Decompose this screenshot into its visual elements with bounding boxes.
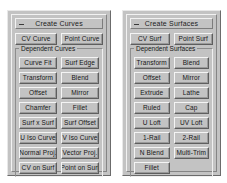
button-ruled[interactable]: Ruled (134, 102, 170, 114)
button-cap[interactable]: Cap (174, 102, 210, 114)
button-transform[interactable]: Transform (19, 72, 57, 84)
button-row: N Blend Multi-Trim (134, 147, 209, 159)
button-blend[interactable]: Blend (174, 57, 210, 69)
button-row: Transform Blend (134, 57, 209, 69)
screen: Create Curves CV Curve Point Curve Depen… (0, 0, 227, 183)
button-row: Surf x Surf Surf Offset (19, 117, 99, 129)
button-n-blend[interactable]: N Blend (134, 147, 170, 159)
button-row: Fillet (134, 162, 209, 174)
button-u-iso-curve[interactable]: U Iso Curve (19, 132, 57, 144)
button-row: U Iso Curve V Iso Curve (19, 132, 99, 144)
button-surf-edge[interactable]: Surf Edge (61, 57, 99, 69)
button-row: Offset Mirror (19, 87, 99, 99)
button-row: 1-Rail 2-Rail (134, 132, 209, 144)
button-cv-surf[interactable]: CV Surf (130, 33, 170, 45)
button-uv-loft[interactable]: UV Loft (174, 117, 210, 129)
button-row: CV on Surf Point on Surf (19, 162, 99, 174)
titlebar-create-curves[interactable]: Create Curves (15, 18, 103, 29)
button-point-curve[interactable]: Point Curve (61, 33, 103, 45)
button-offset[interactable]: Offset (134, 72, 170, 84)
button-2-rail[interactable]: 2-Rail (174, 132, 210, 144)
titlebar-create-surfaces[interactable]: Create Surfaces (130, 18, 213, 29)
button-vector-proj[interactable]: Vector Proj. (61, 147, 99, 159)
button-cv-on-surf[interactable]: CV on Surf (19, 162, 57, 174)
groupbox-legend: Dependent Surfaces (134, 45, 197, 53)
palette-create-curves: Create Curves CV Curve Point Curve Depen… (7, 10, 111, 176)
groupbox-legend: Dependent Curves (19, 45, 77, 53)
button-multi-trim[interactable]: Multi-Trim (174, 147, 210, 159)
button-v-iso-curve[interactable]: V Iso Curve (61, 132, 99, 144)
palette-create-surfaces: Create Surfaces CV Surf Point Surf Depen… (122, 10, 221, 176)
button-u-loft[interactable]: U Loft (134, 117, 170, 129)
button-extrude[interactable]: Extrude (134, 87, 170, 99)
button-lathe[interactable]: Lathe (174, 87, 210, 99)
groupbox-dependent-curves: Dependent Curves Curve Fit Surf Edge Tra… (15, 48, 103, 177)
button-row: Transform Blend (19, 72, 99, 84)
button-mirror[interactable]: Mirror (61, 87, 99, 99)
button-fillet[interactable]: Fillet (134, 162, 170, 174)
button-row: Normal Proj. Vector Proj. (19, 147, 99, 159)
button-mirror[interactable]: Mirror (174, 72, 210, 84)
button-row: CV Surf Point Surf (130, 33, 213, 45)
button-row: Offset Mirror (134, 72, 209, 84)
button-transform[interactable]: Transform (134, 57, 170, 69)
button-blend[interactable]: Blend (61, 72, 99, 84)
button-row: CV Curve Point Curve (15, 33, 103, 45)
palette-inner: Create Surfaces CV Surf Point Surf Depen… (126, 14, 217, 172)
button-1-rail[interactable]: 1-Rail (134, 132, 170, 144)
groupbox-dependent-surfaces: Dependent Surfaces Transform Blend Offse… (130, 48, 213, 177)
button-row: Extrude Lathe (134, 87, 209, 99)
button-cv-curve[interactable]: CV Curve (15, 33, 57, 45)
minimize-icon[interactable] (134, 22, 139, 27)
titlebar-title: Create Surfaces (145, 19, 199, 28)
button-row: Curve Fit Surf Edge (19, 57, 99, 69)
button-chamfer[interactable]: Chamfer (19, 102, 57, 114)
button-point-surf[interactable]: Point Surf (174, 33, 214, 45)
button-surf-offset[interactable]: Surf Offset (61, 117, 99, 129)
button-curve-fit[interactable]: Curve Fit (19, 57, 57, 69)
button-normal-proj[interactable]: Normal Proj. (19, 147, 57, 159)
button-row: Chamfer Fillet (19, 102, 99, 114)
titlebar-title: Create Curves (35, 19, 83, 28)
button-point-on-surf[interactable]: Point on Surf (61, 162, 99, 174)
palette-inner: Create Curves CV Curve Point Curve Depen… (11, 14, 107, 172)
button-surf-x-surf[interactable]: Surf x Surf (19, 117, 57, 129)
button-row: U Loft UV Loft (134, 117, 209, 129)
minimize-icon[interactable] (19, 22, 24, 27)
button-row: Ruled Cap (134, 102, 209, 114)
button-offset[interactable]: Offset (19, 87, 57, 99)
button-fillet[interactable]: Fillet (61, 102, 99, 114)
